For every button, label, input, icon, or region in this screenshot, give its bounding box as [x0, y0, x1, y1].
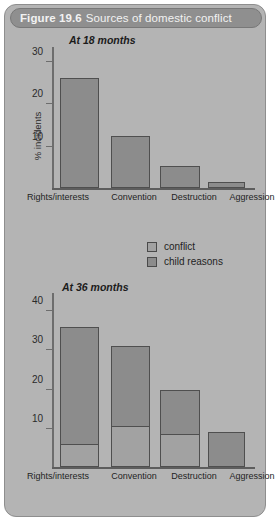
panel-heading-36-months: At 36 months [62, 281, 129, 293]
bar-segment-child-reasons [161, 391, 198, 434]
bar-18-aggression[interactable] [208, 182, 245, 188]
plot-area-18-months: 10 20 30 Rights/interests [52, 53, 249, 190]
x-label-36-aggression: Aggression [214, 471, 270, 481]
bar-18-destruction[interactable] [160, 166, 199, 188]
bar-segment-child-reasons [61, 328, 98, 444]
legend-swatch-conflict [147, 242, 157, 252]
bar-36-destruction[interactable] [160, 390, 199, 467]
bars-18-months [52, 47, 249, 188]
bar-segment-child-reasons [209, 433, 244, 466]
legend-item-conflict[interactable]: conflict [147, 241, 223, 252]
bar-segment-conflict [112, 426, 149, 466]
bar-36-rights-interests[interactable] [60, 327, 99, 467]
y-tick-label-36-30: 30 [32, 334, 43, 345]
legend-label-child-reasons: child reasons [164, 256, 223, 267]
figure-title: Sources of domestic conflict [86, 12, 232, 24]
bar-segment-conflict [61, 79, 98, 187]
x-axis-labels-18-months: Rights/interests Convention Destruction … [8, 192, 257, 206]
bar-segment-child-reasons [112, 347, 149, 427]
figure-number: Figure 19.6 [20, 12, 82, 24]
figure-title-bar: Figure 19.6 Sources of domestic conflict [10, 8, 262, 28]
x-label-36-rights-interests: Rights/interests [8, 471, 108, 481]
x-axis-36-months [52, 467, 255, 469]
legend-swatch-child-reasons [147, 257, 157, 267]
legend: conflict child reasons [147, 241, 223, 271]
bar-segment-conflict [61, 444, 98, 466]
legend-label-conflict: conflict [164, 241, 195, 252]
bar-36-convention[interactable] [111, 346, 150, 467]
x-axis-labels-36-months: Rights/interests Convention Destruction … [8, 471, 257, 485]
x-label-18-rights-interests: Rights/interests [8, 192, 108, 202]
y-tick-label-18-10: 10 [32, 131, 43, 142]
figure-card: Figure 19.6 Sources of domestic conflict… [4, 4, 266, 517]
y-tick-label-18-20: 20 [32, 88, 43, 99]
bar-segment-conflict [209, 183, 244, 187]
y-tick-label-36-10: 10 [32, 413, 43, 424]
bar-segment-conflict [161, 167, 198, 187]
legend-item-child-reasons[interactable]: child reasons [147, 256, 223, 267]
bar-18-rights-interests[interactable] [60, 78, 99, 188]
y-tick-label-18-30: 30 [32, 45, 43, 56]
x-axis-18-months [52, 188, 255, 190]
x-label-18-aggression: Aggression [214, 192, 270, 202]
chart-panel-36-months: At 36 months 10 20 30 40 [5, 277, 267, 517]
y-tick-label-36-40: 40 [32, 294, 43, 305]
chart-panel-18-months: At 18 months % incidents 10 20 30 [5, 29, 267, 234]
bar-segment-conflict [112, 137, 149, 187]
bar-segment-conflict [161, 434, 198, 466]
plot-area-36-months: 10 20 30 40 [52, 299, 249, 469]
y-tick-label-36-20: 20 [32, 373, 43, 384]
panel-heading-18-months: At 18 months [69, 34, 136, 46]
bar-18-convention[interactable] [111, 136, 150, 188]
bars-36-months [52, 293, 249, 467]
bar-36-aggression[interactable] [208, 432, 245, 467]
